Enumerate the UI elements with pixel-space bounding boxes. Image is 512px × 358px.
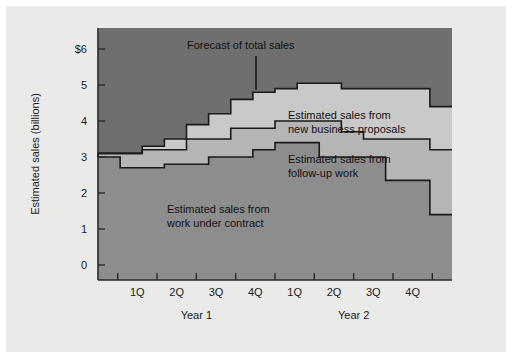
x-tick-label-5: 2Q bbox=[327, 286, 342, 298]
annotation-follow-up-line1: Estimated sales from bbox=[288, 153, 391, 165]
y-tick-label-3: 3 bbox=[81, 151, 87, 163]
step-area-chart: $6543210 1Q2Q3Q4Q1Q2Q3Q4Q Year 1Year 2 E… bbox=[0, 0, 512, 358]
x-tick-label-2: 3Q bbox=[209, 286, 224, 298]
x-tick-label-0: 1Q bbox=[130, 286, 145, 298]
x-axis-group-labels: Year 1Year 2 bbox=[181, 309, 370, 321]
y-axis-tick-labels: $6543210 bbox=[75, 43, 87, 271]
annotation-contract-line2: work under contract bbox=[166, 217, 264, 229]
annotation-new-business-line1: Estimated sales from bbox=[288, 109, 391, 121]
y-tick-label-2: 2 bbox=[81, 187, 87, 199]
figure-container: $6543210 1Q2Q3Q4Q1Q2Q3Q4Q Year 1Year 2 E… bbox=[0, 0, 512, 358]
year-label-1: Year 1 bbox=[181, 309, 212, 321]
x-tick-label-1: 2Q bbox=[169, 286, 184, 298]
y-tick-label-0: 0 bbox=[81, 259, 87, 271]
x-tick-label-7: 4Q bbox=[405, 286, 420, 298]
y-tick-label-6: $6 bbox=[75, 43, 87, 55]
annotation-follow-up-line2: follow-up work bbox=[288, 167, 359, 179]
y-tick-label-4: 4 bbox=[81, 115, 87, 127]
y-axis-title: Estimated sales (billions) bbox=[29, 93, 41, 215]
x-tick-label-6: 3Q bbox=[366, 286, 381, 298]
x-axis-tick-labels: 1Q2Q3Q4Q1Q2Q3Q4Q bbox=[130, 286, 420, 298]
x-tick-label-4: 1Q bbox=[287, 286, 302, 298]
annotation-contract-line1: Estimated sales from bbox=[167, 203, 270, 215]
annotation-total-sales-line1: Forecast of total sales bbox=[187, 39, 295, 51]
year-label-2: Year 2 bbox=[338, 309, 369, 321]
y-tick-label-5: 5 bbox=[81, 79, 87, 91]
annotation-new-business-line2: new business proposals bbox=[288, 123, 406, 135]
x-tick-label-3: 4Q bbox=[248, 286, 263, 298]
y-tick-label-1: 1 bbox=[81, 223, 87, 235]
